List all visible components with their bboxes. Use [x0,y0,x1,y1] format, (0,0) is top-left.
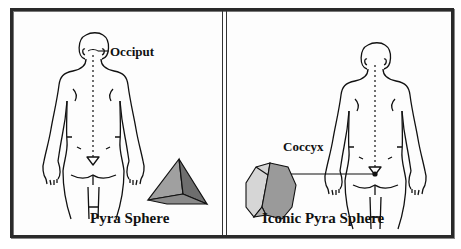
panel-divider-left-line [222,11,223,235]
left-panel: Occiput Pyra Sphere [13,11,222,235]
pyra-sphere-caption: Pyra Sphere [90,210,169,227]
iconic-pyra-sphere-caption: Iconic Pyra Sphere [262,210,384,227]
diagram-frame: Occiput Pyra Sphere [10,8,454,238]
human-body-back-figure-right [315,39,435,239]
coccyx-label: Coccyx [283,139,323,155]
right-panel: Coccyx Iconic Pyra Sphere [227,11,451,235]
occiput-label: Occiput [110,44,154,60]
tetrahedron-icon [147,158,209,204]
